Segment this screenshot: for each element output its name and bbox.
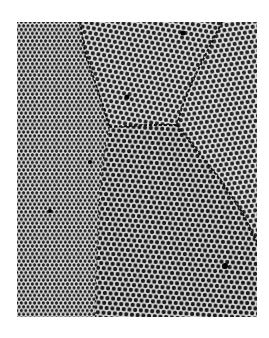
grain-boundaries: [17, 22, 257, 317]
defect: [125, 95, 130, 100]
lattice-micrograph: [17, 22, 257, 317]
